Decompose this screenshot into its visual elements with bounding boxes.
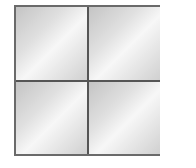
- quadrant-bottom-left: [16, 81, 88, 154]
- four-quadrant-square: [14, 5, 160, 156]
- quadrant-top-right: [88, 7, 160, 81]
- quadrant-bottom-right: [88, 81, 160, 154]
- quadrant-top-left: [16, 7, 88, 81]
